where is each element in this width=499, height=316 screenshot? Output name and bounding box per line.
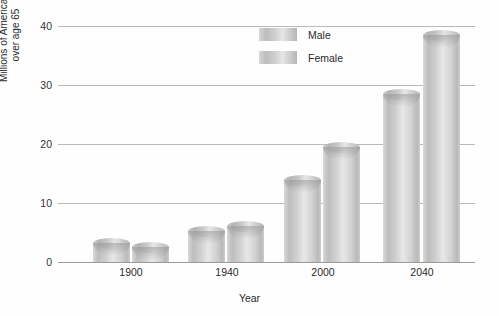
legend-swatch-male xyxy=(259,28,297,41)
bar-1900-female xyxy=(132,247,169,262)
bar-1940-male xyxy=(188,231,225,262)
y-tick-20: 20 xyxy=(40,138,52,150)
legend-label-female: Female xyxy=(308,52,343,64)
bar-2000-female xyxy=(323,147,360,262)
y-axis-title-line2: over age 65 xyxy=(10,0,22,95)
y-tick-40: 40 xyxy=(40,20,52,32)
bar-2000-male xyxy=(284,180,321,262)
bar-shading xyxy=(323,147,360,160)
bar-1940-female xyxy=(227,226,264,262)
y-axis-title: Millions of Americans over age 65 xyxy=(0,0,22,95)
gridline-0-baseline xyxy=(58,262,475,263)
x-tick-1900: 1900 xyxy=(119,266,142,278)
legend-item-female: Female xyxy=(259,51,343,64)
bar-shading xyxy=(227,226,264,239)
x-tick-2000: 2000 xyxy=(311,266,334,278)
y-tick-30: 30 xyxy=(40,79,52,91)
bar-shading xyxy=(188,231,225,244)
legend-item-male: Male xyxy=(259,28,343,41)
bar-2040-male xyxy=(383,94,420,262)
bar-1900-male xyxy=(93,243,130,262)
bar-shading xyxy=(423,35,460,48)
bar-2040-female xyxy=(423,35,460,262)
chart-legend: Male Female xyxy=(259,28,343,74)
x-axis-title: Year xyxy=(0,292,499,304)
x-tick-1940: 1940 xyxy=(215,266,238,278)
x-tick-2040: 2040 xyxy=(410,266,433,278)
bar-shading xyxy=(383,94,420,107)
y-tick-10: 10 xyxy=(40,197,52,209)
legend-swatch-female xyxy=(259,51,297,64)
x-axis-tick-labels: 1900 1940 2000 2040 xyxy=(58,266,475,286)
y-tick-0: 0 xyxy=(46,256,52,268)
bar-shading xyxy=(93,243,130,256)
legend-label-male: Male xyxy=(308,29,331,41)
chart-figure: 40 30 20 10 0 Millions of Americans over… xyxy=(0,0,499,316)
bar-shading xyxy=(132,247,169,260)
bar-shading xyxy=(284,180,321,193)
y-axis-title-line1: Millions of Americans xyxy=(0,0,10,95)
